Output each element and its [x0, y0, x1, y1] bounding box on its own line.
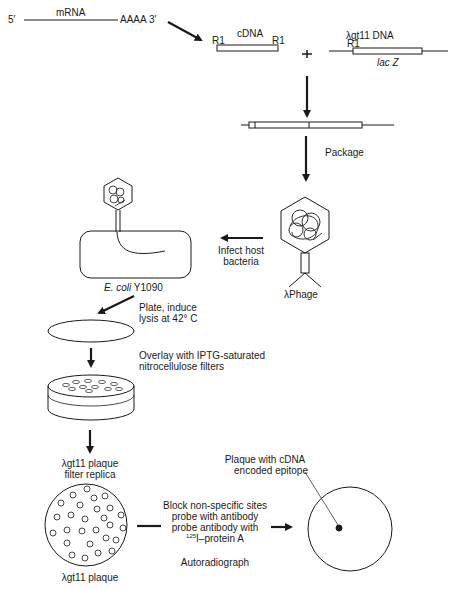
recombinant-insert: [249, 122, 362, 128]
mrna-label: mRNA: [56, 7, 85, 18]
agar-plate: [48, 320, 134, 342]
phage-dna-coil: [289, 210, 322, 240]
r1-vector-label: R1: [347, 38, 360, 49]
r1-left-label: R1: [212, 35, 225, 46]
phage-on-bacterium-head: [104, 178, 132, 210]
lacz-gene: [353, 48, 422, 54]
ecoli-label: E. coli Y1090: [104, 282, 163, 293]
plaque-bottom-label: λgt11 plaque: [50, 572, 130, 583]
cdna-label: cDNA: [237, 28, 263, 39]
epitope-label: Plaque with cDNA encoded epitope: [210, 454, 320, 476]
filter-replica-label: λgt11 plaque filter replica: [50, 458, 130, 480]
overlay-label: Overlay with IPTG-saturated nitrocellulo…: [139, 350, 265, 372]
phage-label: λPhage: [284, 289, 318, 300]
arrow-to-cdna: [168, 22, 201, 40]
five-prime-label: 5′: [8, 14, 15, 25]
plaque-dots: [50, 486, 126, 561]
injected-dna: [117, 232, 165, 254]
block-probe-label: Block non-specific sites probe with anti…: [155, 500, 275, 544]
positive-plaque-spot: [336, 525, 342, 531]
package-label: Package: [325, 147, 364, 158]
autoradiograph-label: Autoradiograph: [175, 557, 255, 568]
poly-a-label: AAAA 3′: [120, 14, 156, 25]
infect-label: Infect host bacteria: [213, 245, 269, 267]
r1-right-label: R1: [272, 35, 285, 46]
lacz-label: lac Z: [377, 57, 399, 68]
ecoli-cell: [80, 231, 191, 278]
phage-tail: [301, 253, 309, 273]
petri-dish-with-filter: [48, 375, 134, 420]
plate-induce-label: Plate, induce lysis at 42° C: [139, 302, 197, 324]
cdna-fragment: [217, 45, 278, 51]
plaque-filter: [45, 484, 127, 566]
phage-head: [281, 197, 329, 253]
autoradiograph-film: [308, 487, 392, 571]
